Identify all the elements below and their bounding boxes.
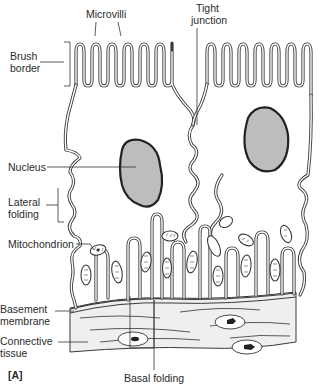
label-basal-folding: Basal folding xyxy=(124,372,184,384)
label-tight-junction: Tight xyxy=(196,2,219,14)
label-tight-junction-2: junction xyxy=(190,14,227,26)
label-brush-border-2: border xyxy=(10,62,41,74)
epithelial-cell-diagram: Microvilli Tight junction Brush border N… xyxy=(0,0,328,385)
label-microvilli: Microvilli xyxy=(86,8,126,20)
label-mitochondrion: Mitochondrion xyxy=(8,238,74,250)
label-connective-tissue-2: tissue xyxy=(0,347,28,359)
mitochondria xyxy=(81,214,294,286)
nucleus-right xyxy=(244,107,288,171)
label-lateral-folding: Lateral xyxy=(8,196,40,208)
connective-tissue xyxy=(70,292,296,354)
label-basement-membrane-2: membrane xyxy=(0,315,50,327)
label-lateral-folding-2: folding xyxy=(8,208,39,220)
label-basement-membrane: Basement xyxy=(0,303,47,315)
nucleus-left xyxy=(120,140,162,207)
label-connective-tissue: Connective xyxy=(0,335,53,347)
panel-label: [A] xyxy=(8,369,23,381)
label-brush-border: Brush xyxy=(10,50,38,62)
label-nucleus: Nucleus xyxy=(8,161,46,173)
